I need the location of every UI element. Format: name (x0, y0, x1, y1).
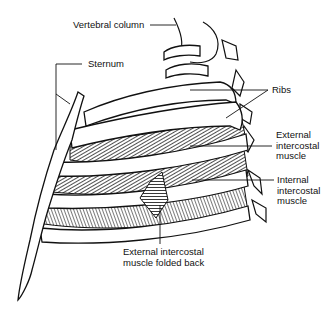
label-line: External (276, 130, 319, 141)
label-ribs: Ribs (272, 85, 291, 96)
label-line: muscle (277, 196, 320, 207)
label-line: Internal (277, 175, 320, 186)
label-sternum: Sternum (88, 59, 124, 70)
label-internal-intercostal: Internal intercostal muscle (277, 175, 320, 207)
label-line: External intercostal (123, 247, 204, 258)
label-external-intercostal-folded-back: External intercostal muscle folded back (123, 247, 204, 268)
label-external-intercostal: External intercostal muscle (276, 130, 319, 162)
label-vertebral-column: Vertebral column (73, 20, 144, 31)
label-line: muscle (276, 151, 319, 162)
label-line: muscle folded back (123, 258, 204, 269)
